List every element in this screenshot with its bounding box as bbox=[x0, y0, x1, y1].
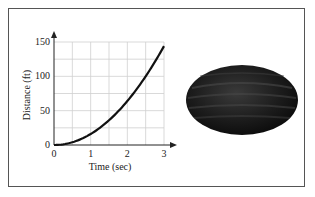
axes bbox=[51, 31, 177, 148]
y-tick-label: 0 bbox=[45, 139, 50, 150]
y-tick-label: 150 bbox=[35, 36, 50, 47]
y-axis-arrow-icon bbox=[51, 31, 57, 38]
x-tick-label: 1 bbox=[88, 148, 93, 159]
x-tick-label: 0 bbox=[52, 148, 57, 159]
y-tick-label: 50 bbox=[40, 105, 50, 116]
x-axis-label: Time (sec) bbox=[89, 161, 132, 173]
tick-labels: 0123050100150 bbox=[35, 36, 167, 159]
y-tick-label: 100 bbox=[35, 70, 50, 81]
x-tick-label: 3 bbox=[162, 148, 167, 159]
y-axis-label: Distance (ft) bbox=[21, 70, 33, 120]
grid bbox=[54, 42, 164, 145]
x-tick-label: 2 bbox=[125, 148, 130, 159]
x-axis-arrow-icon bbox=[170, 142, 177, 148]
watermelon-image bbox=[186, 65, 298, 135]
chart: 0123050100150 Time (sec) Distance (ft) bbox=[0, 0, 315, 197]
